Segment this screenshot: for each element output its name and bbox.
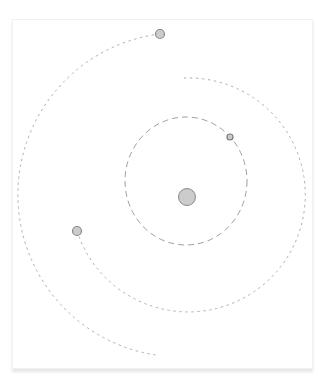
outer-planet bbox=[156, 30, 165, 39]
outer-orbit-path bbox=[18, 34, 160, 355]
middle-planet bbox=[73, 227, 82, 236]
sun-body bbox=[179, 189, 196, 206]
diagram-stage bbox=[0, 0, 332, 381]
orbital-diagram bbox=[0, 0, 332, 381]
inner-planet bbox=[227, 134, 233, 140]
